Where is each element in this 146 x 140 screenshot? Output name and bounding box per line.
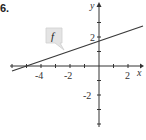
function-label-callout: f	[46, 28, 64, 50]
y-axis-arrow-icon	[97, 2, 102, 7]
y-axis-label: y	[89, 0, 95, 11]
y-tick-label-2: 2	[90, 32, 95, 43]
function-graph: f -4 -2 2 x y 2 -2	[0, 0, 146, 140]
x-axis: -4 -2 2 x	[10, 64, 144, 82]
x-axis-label: x	[136, 67, 142, 78]
x-tick-label-neg2: -2	[64, 70, 72, 81]
y-tick-label-neg2: -2	[83, 90, 91, 101]
x-tick-label-neg4: -4	[35, 70, 43, 81]
y-axis: y 2 -2	[83, 0, 102, 127]
x-tick-label-2: 2	[125, 70, 130, 81]
function-line-f	[12, 26, 143, 71]
